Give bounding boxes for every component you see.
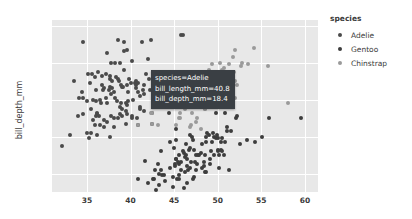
- data-point-adelie[interactable]: [97, 114, 101, 118]
- data-point-adelie[interactable]: [121, 85, 125, 89]
- data-point-gentoo[interactable]: [162, 173, 166, 177]
- data-point-chinstrap[interactable]: [233, 48, 237, 52]
- data-point-gentoo[interactable]: [190, 135, 194, 139]
- data-point-gentoo[interactable]: [184, 142, 188, 146]
- data-point-gentoo[interactable]: [227, 168, 231, 172]
- data-point-gentoo[interactable]: [204, 140, 208, 144]
- data-point-gentoo[interactable]: [245, 138, 249, 142]
- data-point-adelie[interactable]: [140, 40, 144, 44]
- data-point-adelie[interactable]: [142, 83, 146, 87]
- data-point-adelie[interactable]: [87, 136, 91, 140]
- data-point-gentoo[interactable]: [185, 181, 189, 185]
- data-point-chinstrap[interactable]: [239, 64, 243, 68]
- data-point-gentoo[interactable]: [159, 168, 163, 172]
- data-point-adelie[interactable]: [124, 122, 128, 126]
- data-point-adelie[interactable]: [135, 116, 139, 120]
- data-point-adelie[interactable]: [125, 103, 129, 107]
- data-point-gentoo[interactable]: [235, 114, 239, 118]
- data-point-adelie[interactable]: [94, 99, 98, 103]
- data-point-chinstrap[interactable]: [150, 111, 154, 115]
- data-point-chinstrap[interactable]: [178, 111, 182, 115]
- data-point-gentoo[interactable]: [152, 177, 156, 181]
- data-point-adelie[interactable]: [89, 107, 93, 111]
- data-point-adelie[interactable]: [142, 109, 146, 113]
- data-point-gentoo[interactable]: [168, 166, 172, 170]
- data-point-gentoo[interactable]: [192, 175, 196, 179]
- data-point-adelie[interactable]: [76, 114, 80, 118]
- data-point-gentoo[interactable]: [194, 168, 198, 172]
- data-point-adelie[interactable]: [81, 40, 85, 44]
- data-point-gentoo[interactable]: [191, 138, 195, 142]
- data-point-gentoo[interactable]: [179, 160, 183, 164]
- data-point-gentoo[interactable]: [168, 140, 172, 144]
- data-point-adelie[interactable]: [102, 86, 106, 90]
- data-point-adelie[interactable]: [110, 79, 114, 83]
- data-point-adelie[interactable]: [93, 75, 97, 79]
- data-point-adelie[interactable]: [116, 38, 120, 42]
- data-point-adelie[interactable]: [113, 61, 117, 65]
- data-point-gentoo[interactable]: [163, 179, 167, 183]
- data-point-adelie[interactable]: [122, 68, 126, 72]
- data-point-gentoo[interactable]: [299, 116, 303, 120]
- data-point-chinstrap[interactable]: [195, 116, 199, 120]
- data-point-gentoo[interactable]: [203, 153, 207, 157]
- data-point-adelie[interactable]: [99, 101, 103, 105]
- data-point-gentoo[interactable]: [136, 177, 140, 181]
- data-point-chinstrap[interactable]: [189, 123, 193, 127]
- data-point-adelie[interactable]: [102, 125, 106, 129]
- data-point-adelie[interactable]: [93, 123, 97, 127]
- legend-item-adelie[interactable]: Adelie: [330, 28, 410, 42]
- data-point-chinstrap[interactable]: [156, 123, 160, 127]
- data-point-gentoo[interactable]: [223, 111, 227, 115]
- data-point-adelie[interactable]: [146, 57, 150, 61]
- data-point-gentoo[interactable]: [159, 149, 163, 153]
- data-point-chinstrap[interactable]: [227, 62, 231, 66]
- data-point-chinstrap[interactable]: [194, 120, 198, 124]
- data-point-gentoo[interactable]: [177, 173, 181, 177]
- data-point-gentoo[interactable]: [188, 146, 192, 150]
- data-point-gentoo[interactable]: [238, 142, 242, 146]
- data-point-chinstrap[interactable]: [231, 55, 235, 59]
- data-point-adelie[interactable]: [94, 88, 98, 92]
- data-point-gentoo[interactable]: [260, 135, 264, 139]
- data-point-chinstrap[interactable]: [150, 122, 154, 126]
- data-point-gentoo[interactable]: [146, 181, 150, 185]
- data-point-adelie[interactable]: [125, 48, 129, 52]
- data-point-gentoo[interactable]: [153, 168, 157, 172]
- data-point-adelie[interactable]: [142, 92, 146, 96]
- data-point-adelie[interactable]: [118, 61, 122, 65]
- data-point-adelie[interactable]: [85, 99, 89, 103]
- data-point-chinstrap[interactable]: [199, 127, 203, 131]
- data-point-gentoo[interactable]: [177, 177, 181, 181]
- data-point-gentoo[interactable]: [174, 127, 178, 131]
- data-point-adelie[interactable]: [72, 79, 76, 83]
- data-point-gentoo[interactable]: [217, 153, 221, 157]
- data-point-gentoo[interactable]: [192, 148, 196, 152]
- legend-item-chinstrap[interactable]: Chinstrap: [330, 56, 410, 70]
- data-point-gentoo[interactable]: [172, 146, 176, 150]
- data-point-gentoo[interactable]: [217, 166, 221, 170]
- data-point-adelie[interactable]: [130, 116, 134, 120]
- data-point-adelie[interactable]: [136, 81, 140, 85]
- data-point-adelie[interactable]: [112, 125, 116, 129]
- data-point-chinstrap[interactable]: [252, 46, 256, 50]
- data-point-gentoo[interactable]: [167, 111, 171, 115]
- data-point-adelie[interactable]: [112, 90, 116, 94]
- data-point-adelie[interactable]: [108, 135, 112, 139]
- data-point-chinstrap[interactable]: [190, 111, 194, 115]
- data-point-chinstrap[interactable]: [218, 61, 222, 65]
- data-point-gentoo[interactable]: [174, 138, 178, 142]
- data-point-adelie[interactable]: [130, 59, 134, 63]
- data-point-adelie[interactable]: [144, 72, 148, 76]
- data-point-adelie[interactable]: [105, 51, 109, 55]
- data-point-adelie[interactable]: [149, 38, 153, 42]
- data-point-adelie[interactable]: [122, 40, 126, 44]
- data-point-adelie[interactable]: [88, 81, 92, 85]
- data-point-adelie[interactable]: [105, 101, 109, 105]
- data-point-gentoo[interactable]: [200, 142, 204, 146]
- data-point-chinstrap[interactable]: [210, 62, 214, 66]
- legend-items[interactable]: AdelieGentooChinstrap: [330, 28, 410, 70]
- data-point-adelie[interactable]: [80, 90, 84, 94]
- data-point-adelie[interactable]: [112, 116, 116, 120]
- data-point-adelie[interactable]: [126, 90, 130, 94]
